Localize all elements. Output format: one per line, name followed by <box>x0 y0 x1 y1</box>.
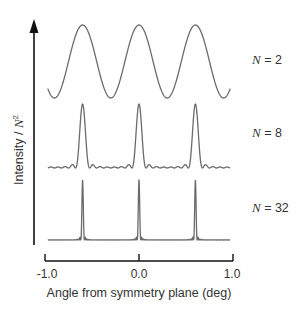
label-n8: N = 8 <box>251 125 282 140</box>
curve-n2 <box>48 25 230 98</box>
x-axis <box>45 254 233 261</box>
label-n32: N = 32 <box>251 200 289 215</box>
x-tick-label-0: 0.0 <box>131 267 148 281</box>
x-tick-label-neg1: -1.0 <box>37 267 58 281</box>
x-tick-label-1: 1.0 <box>224 267 241 281</box>
y-axis <box>30 19 39 245</box>
x-axis-label: Angle from symmetry plane (deg) <box>47 286 232 300</box>
interference-chart: Intensity / N2 N = 2 N = 8 N = 32 -1.0 0… <box>0 0 299 310</box>
curve-n32 <box>48 180 230 240</box>
y-axis-arrow-icon <box>30 19 39 33</box>
label-n2: N = 2 <box>251 52 282 67</box>
curve-n8 <box>48 104 230 168</box>
y-axis-label: Intensity / N2 <box>11 114 26 185</box>
